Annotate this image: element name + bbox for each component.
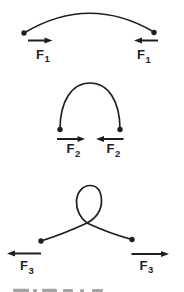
rod-arch	[60, 83, 120, 130]
endpoint-dot-right	[129, 237, 134, 242]
arrow-head-right-icon	[78, 136, 86, 142]
rod-forces-diagram: F1 F1 F2 F2	[0, 0, 184, 292]
force-label-f1-right: F1	[137, 47, 151, 65]
force-arrow-right-outward	[132, 251, 170, 257]
endpoint-dot-right	[151, 30, 156, 35]
endpoint-dot-left	[57, 127, 62, 132]
endpoint-dot-left	[21, 30, 26, 35]
force-arrow-left-inward	[28, 38, 53, 44]
endpoint-dot-right	[117, 127, 122, 132]
diagram-canvas: F1 F1 F2 F2	[0, 0, 184, 292]
arrow-head-left-icon	[134, 38, 142, 44]
rod-shallow-arc	[24, 13, 154, 33]
arrow-head-left-icon	[96, 136, 104, 142]
figure-looped-rod: F3 F3	[7, 186, 169, 276]
force-arrow-left-outward	[7, 251, 41, 257]
force-label-f2-left: F2	[67, 141, 81, 159]
rod-loop	[41, 186, 132, 242]
arrow-head-right-icon	[161, 251, 169, 257]
force-label-f1-left: F1	[36, 47, 50, 65]
force-label-f3-left: F3	[20, 258, 34, 276]
endpoint-dot-left	[38, 238, 43, 243]
figure-bowed-rod: F1 F1	[21, 13, 158, 64]
figure-arched-rod: F2 F2	[57, 83, 124, 159]
force-arrow-right-inward	[134, 38, 158, 44]
arrow-head-right-icon	[45, 38, 53, 44]
force-label-f2-right: F2	[107, 141, 121, 159]
force-label-f3-right: F3	[140, 258, 154, 276]
arrow-head-left-icon	[7, 251, 15, 257]
